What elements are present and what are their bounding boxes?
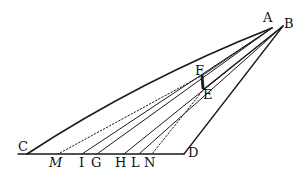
label-g: G (91, 156, 101, 169)
label-e: E (203, 88, 213, 101)
label-b: B (284, 17, 294, 30)
label-c: C (18, 140, 28, 153)
geometric-diagram (0, 0, 308, 176)
label-i: I (79, 156, 84, 169)
label-m: M (49, 156, 62, 169)
segment-bd (184, 26, 283, 154)
label-n: N (144, 156, 155, 169)
label-d: D (188, 146, 198, 159)
curve-ca (27, 28, 272, 154)
segment-be (204, 26, 283, 89)
label-f: F (195, 64, 204, 77)
label-l: L (131, 156, 140, 169)
segment-af (203, 28, 272, 75)
segment-ag (97, 28, 272, 154)
label-a: A (263, 11, 272, 24)
dotted-fm (58, 75, 203, 154)
label-h: H (115, 156, 126, 169)
